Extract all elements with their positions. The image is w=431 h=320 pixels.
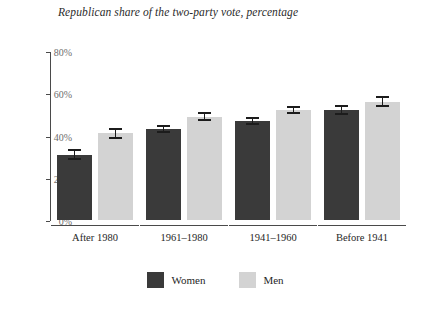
error-bar-cap-upper [198, 112, 211, 114]
chart-title: Republican share of the two-party vote, … [58, 6, 298, 18]
bar-men-2[interactable] [276, 110, 311, 220]
error-bar-cap-upper [376, 96, 389, 98]
error-bar-cap-lower [376, 105, 389, 107]
x-axis-segment [318, 225, 406, 226]
bar-group [235, 51, 313, 220]
error-bar-cap-upper [246, 117, 259, 119]
bar-group [57, 51, 135, 220]
error-bar-cap-lower [287, 112, 300, 114]
error-bar-cap-lower [68, 158, 81, 160]
y-axis-tick [46, 52, 50, 53]
bar-group [146, 51, 224, 220]
x-axis-segment [51, 225, 139, 226]
legend-label: Women [171, 274, 205, 286]
legend-swatch-icon [239, 272, 256, 288]
bar-men-3[interactable] [365, 102, 400, 220]
error-bar-cap-lower [157, 131, 170, 133]
bar-women-1[interactable] [146, 129, 181, 220]
bar-group [324, 51, 402, 220]
legend-item-women[interactable]: Women [147, 272, 205, 288]
error-bar-cap-lower [109, 137, 122, 139]
bar-chart: Republican share of the two-party vote, … [0, 0, 431, 320]
error-bar-cap-upper [287, 106, 300, 108]
category-label-2: 1941–1960 [229, 232, 317, 243]
y-axis-tick [46, 179, 50, 180]
y-axis-tick [46, 221, 50, 222]
bar-women-0[interactable] [57, 155, 92, 220]
category-label-0: After 1980 [51, 232, 139, 243]
error-bar-cap-lower [198, 119, 211, 121]
x-axis-segment [140, 225, 228, 226]
plot-area: 0%20%40%60%80% [50, 45, 415, 220]
error-bar-cap-upper [157, 125, 170, 127]
legend-label: Men [263, 274, 283, 286]
chart-legend: WomenMen [0, 272, 431, 288]
error-bar-cap-upper [109, 128, 122, 130]
bar-women-3[interactable] [324, 110, 359, 220]
category-label-3: Before 1941 [318, 232, 406, 243]
error-bar-cap-upper [335, 105, 348, 107]
legend-item-men[interactable]: Men [239, 272, 283, 288]
error-bar-cap-lower [335, 113, 348, 115]
error-bar-cap-upper [68, 149, 81, 151]
y-axis-tick [46, 137, 50, 138]
error-bar-cap-lower [246, 123, 259, 125]
bar-men-0[interactable] [98, 133, 133, 220]
bar-men-1[interactable] [187, 117, 222, 221]
category-label-1: 1961–1980 [140, 232, 228, 243]
x-axis-segment [229, 225, 317, 226]
y-axis-tick [46, 94, 50, 95]
bar-women-2[interactable] [235, 121, 270, 220]
legend-swatch-icon [147, 272, 164, 288]
